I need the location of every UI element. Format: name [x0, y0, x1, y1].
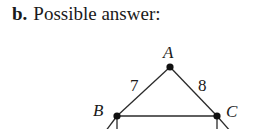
- weight-b-c: 6: [163, 125, 172, 129]
- weight-a-c: 8: [198, 76, 207, 95]
- edge-a-b: [117, 67, 170, 116]
- vertex-c-label: C: [226, 102, 238, 121]
- weight-a-b: 7: [130, 76, 139, 95]
- weight-b-down-left: 2: [75, 125, 84, 129]
- weighted-graph-diagram: A B C 7 8 6 2 6: [0, 0, 255, 129]
- vertex-c-dot: [213, 112, 220, 119]
- weight-c-down-right: 6: [249, 125, 255, 129]
- vertex-b-label: B: [93, 101, 104, 120]
- vertex-a-label: A: [162, 43, 174, 62]
- vertex-a-dot: [166, 63, 173, 70]
- vertex-b-dot: [113, 112, 120, 119]
- edge-a-c: [170, 67, 217, 116]
